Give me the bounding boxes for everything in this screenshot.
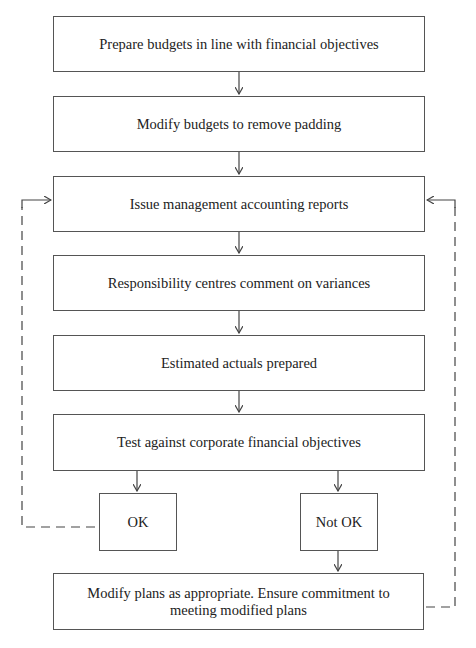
node-label: Estimated actuals prepared — [161, 355, 317, 372]
node-label: Issue management accounting reports — [130, 196, 349, 213]
node-label: Responsibility centres comment on varian… — [108, 275, 371, 292]
node-prepare-budgets: Prepare budgets in line with financial o… — [53, 16, 425, 72]
arrow-ok-loop-to-issue — [22, 200, 51, 208]
node-label: OK — [128, 514, 149, 531]
node-issue-reports: Issue management accounting reports — [53, 176, 425, 232]
node-label: Test against corporate financial objecti… — [117, 434, 361, 451]
dashed-modifyplans-loop — [426, 207, 455, 607]
arrow-modifyplans-loop-to-issue — [427, 200, 455, 208]
node-label: Not OK — [316, 514, 362, 531]
node-estimated-actuals: Estimated actuals prepared — [53, 335, 425, 391]
node-ok: OK — [99, 493, 177, 551]
node-label: Prepare budgets in line with financial o… — [99, 36, 378, 53]
node-label-line-2: meeting modified plans — [170, 602, 307, 619]
node-test-objectives: Test against corporate financial objecti… — [53, 414, 425, 471]
node-modify-budgets: Modify budgets to remove padding — [53, 96, 425, 152]
node-label: Modify budgets to remove padding — [137, 116, 342, 133]
node-not-ok: Not OK — [300, 493, 378, 551]
node-modify-plans: Modify plans as appropriate. Ensure comm… — [53, 573, 424, 630]
node-label-line-1: Modify plans as appropriate. Ensure comm… — [87, 585, 389, 602]
node-comment-variances: Responsibility centres comment on varian… — [53, 255, 425, 311]
